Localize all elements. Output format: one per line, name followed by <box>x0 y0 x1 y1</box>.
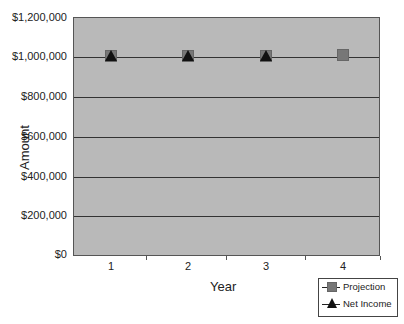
x-tick: 3 <box>263 260 269 272</box>
net-income-point <box>260 50 272 61</box>
x-tick-mark <box>305 256 306 260</box>
square-marker-icon <box>327 282 337 292</box>
y-tick: $0 <box>55 248 67 260</box>
projection-point <box>337 49 349 61</box>
net-income-point <box>105 50 117 61</box>
x-tick: 1 <box>108 260 114 272</box>
gridline-600000 <box>74 137 379 138</box>
plot-area <box>73 17 380 256</box>
x-axis-label: Year <box>210 279 236 294</box>
triangle-marker-icon <box>327 298 337 308</box>
gridline-1000000 <box>74 57 379 58</box>
x-tick: 4 <box>340 260 346 272</box>
gridline-200000 <box>74 216 379 217</box>
legend: Projection Net Income <box>318 278 398 317</box>
y-axis-label: Amount <box>17 118 32 178</box>
net-income-point <box>182 50 194 61</box>
legend-label: Net Income <box>343 298 392 309</box>
gridline-800000 <box>74 97 379 98</box>
y-tick: $1,000,000 <box>12 50 67 62</box>
y-tick: $200,000 <box>21 209 67 221</box>
legend-label: Projection <box>343 281 385 292</box>
x-tick-mark <box>380 256 381 260</box>
x-tick: 2 <box>185 260 191 272</box>
legend-item-net-income: Net Income <box>319 296 397 313</box>
gridline-400000 <box>74 177 379 178</box>
x-tick-mark <box>226 256 227 260</box>
legend-item-projection: Projection <box>319 279 397 296</box>
x-tick-mark <box>146 256 147 260</box>
y-tick: $1,200,000 <box>12 11 67 23</box>
y-tick: $800,000 <box>21 90 67 102</box>
